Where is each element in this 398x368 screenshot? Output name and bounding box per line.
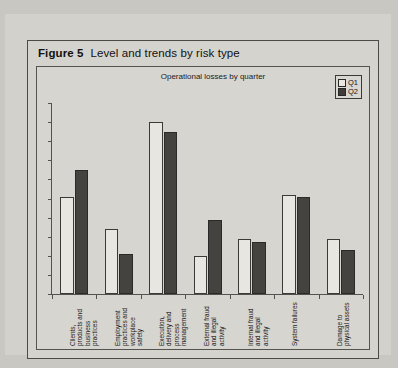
bar-q1: [105, 229, 119, 294]
bar-q2: [164, 132, 178, 294]
figure-number: Figure 5: [38, 47, 84, 59]
bar-q2: [297, 197, 311, 294]
category-label: Clients, products and business practices: [69, 300, 113, 346]
figure-container: Figure 5Level and trends by risk type Op…: [27, 40, 379, 359]
x-axis-tick: [319, 295, 320, 299]
chart-legend: Q1 Q2: [335, 75, 362, 99]
bar-group: [238, 103, 266, 294]
document-page: Figure 5Level and trends by risk type Op…: [5, 14, 391, 355]
x-axis-tick: [274, 295, 275, 299]
legend-swatch-q2-icon: [338, 88, 346, 96]
bar-q1: [60, 197, 74, 294]
legend-swatch-q1-icon: [338, 79, 346, 87]
bar-q1: [327, 239, 341, 294]
x-axis-tick: [96, 295, 97, 299]
x-axis-tick: [141, 295, 142, 299]
figure-caption: Figure 5Level and trends by risk type: [38, 47, 240, 59]
bar-group: [194, 103, 222, 294]
bar-group: [282, 103, 310, 294]
bar-group: [105, 103, 133, 294]
bar-q1: [282, 195, 296, 294]
bar-group: [149, 103, 177, 294]
bar-q2: [208, 220, 222, 294]
x-axis-category-labels: Clients, products and business practices…: [52, 300, 363, 348]
chart-plot-frame: Operational losses by quarter Q1 Q2: [36, 66, 370, 350]
bar-group: [60, 103, 88, 294]
bar-q1: [238, 239, 252, 294]
bar-q1: [149, 122, 163, 294]
legend-label-q2: Q2: [348, 87, 358, 96]
category-label: Internal fraud and illegal activity: [247, 300, 291, 346]
x-axis-tick: [185, 295, 186, 299]
x-axis-tick: [363, 295, 364, 299]
category-label: System failures: [291, 300, 335, 346]
bar-q2: [75, 170, 89, 294]
screenshot-root: Figure 5Level and trends by risk type Op…: [0, 0, 398, 368]
category-label: Employment practices and workplace safet…: [114, 300, 158, 346]
bar-q2: [341, 250, 355, 294]
x-axis-tick: [52, 295, 53, 299]
x-axis-tick: [230, 295, 231, 299]
bar-q2: [119, 254, 133, 294]
category-label: Damage to physical assets: [336, 300, 380, 346]
legend-item-q2: Q2: [338, 87, 358, 96]
bars-plot-area: [52, 103, 363, 294]
bar-group: [327, 103, 355, 294]
legend-item-q1: Q1: [338, 78, 358, 87]
chart-subtitle: Operational losses by quarter: [37, 72, 369, 81]
legend-label-q1: Q1: [348, 78, 358, 87]
bar-q2: [252, 242, 266, 294]
figure-title-text: Level and trends by risk type: [91, 47, 240, 59]
bar-q1: [194, 256, 208, 294]
category-label: External fraud and illegal activity: [203, 300, 247, 346]
x-axis: [51, 294, 363, 295]
category-label: Execution, delivery and process manageme…: [158, 300, 202, 346]
